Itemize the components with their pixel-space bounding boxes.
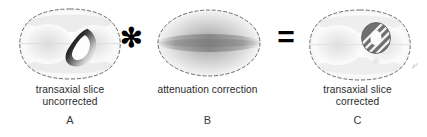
body-fill <box>18 9 122 79</box>
streak-artifact <box>308 44 412 45</box>
panel-b-letter: B <box>140 114 275 126</box>
edge-artifact-marks <box>412 63 418 69</box>
panel-a-image <box>12 6 128 82</box>
panel-c-caption: transaxial slice corrected <box>288 84 427 109</box>
panel-c-letter: C <box>288 114 427 126</box>
streak-artifact <box>18 43 122 44</box>
panel-b-image <box>154 7 264 81</box>
panel-b-caption: attenuation correction <box>140 84 275 96</box>
panel-a-caption: transaxial slice uncorrected <box>0 84 140 109</box>
body-fill <box>308 10 412 80</box>
panel-c-image <box>302 6 418 86</box>
figure-attenuation-correction: transaxial slice uncorrected A ✻ <box>0 0 427 137</box>
panel-a-uncorrected-slice: transaxial slice uncorrected A <box>0 0 140 137</box>
attenuation-gradient-fill <box>154 7 264 81</box>
panel-c-corrected-slice: transaxial slice corrected C <box>288 0 427 137</box>
panel-b-attenuation-map: attenuation correction B <box>140 0 275 137</box>
left-ventricle-cavity <box>370 30 381 45</box>
panel-a-letter: A <box>0 114 140 126</box>
